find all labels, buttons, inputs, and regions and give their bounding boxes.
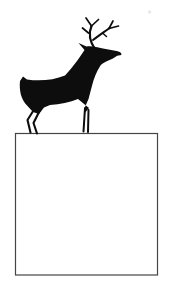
antler-top-left-tine bbox=[86, 18, 92, 26]
antler-top-right-tine bbox=[92, 20, 99, 27]
deer-on-square-figure bbox=[0, 0, 173, 289]
antler-right-branch bbox=[93, 28, 110, 40]
hind-leg-far bbox=[34, 110, 41, 134]
square-frame bbox=[16, 134, 158, 276]
front-leg-far bbox=[88, 110, 89, 132]
deer-body bbox=[20, 43, 122, 114]
deer-antlers bbox=[83, 18, 119, 50]
illustration-canvas bbox=[0, 0, 173, 289]
antler-left-tine bbox=[83, 28, 89, 33]
antler-small-spur bbox=[103, 33, 107, 37]
paper-smudge-artifact bbox=[148, 10, 152, 14]
front-leg-near bbox=[84, 108, 86, 132]
deer-silhouette bbox=[20, 18, 122, 134]
